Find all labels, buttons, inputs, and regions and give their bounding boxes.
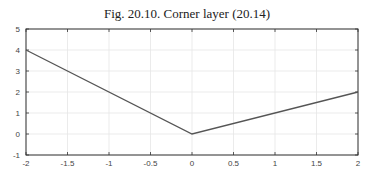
y-tick-label: -1 (13, 151, 21, 160)
y-tick-label: 1 (16, 109, 21, 118)
y-tick-label: 4 (16, 46, 21, 55)
x-tick-label: 0.5 (228, 159, 240, 168)
y-tick-label: 3 (16, 67, 21, 76)
x-tick-label: 2 (356, 159, 361, 168)
y-tick-label: 0 (16, 130, 21, 139)
x-tick-label: 1.5 (311, 159, 323, 168)
x-tick-label: 1 (273, 159, 278, 168)
y-tick-label: 5 (16, 25, 21, 34)
x-tick-label: 0 (190, 159, 195, 168)
x-tick-label: -1.5 (61, 159, 75, 168)
chart-plot: -2-1.5-1-0.500.511.52-1012345 (0, 0, 374, 175)
x-tick-label: -2 (22, 159, 30, 168)
x-tick-label: -1 (105, 159, 113, 168)
x-tick-label: -0.5 (144, 159, 158, 168)
y-tick-label: 2 (16, 88, 21, 97)
